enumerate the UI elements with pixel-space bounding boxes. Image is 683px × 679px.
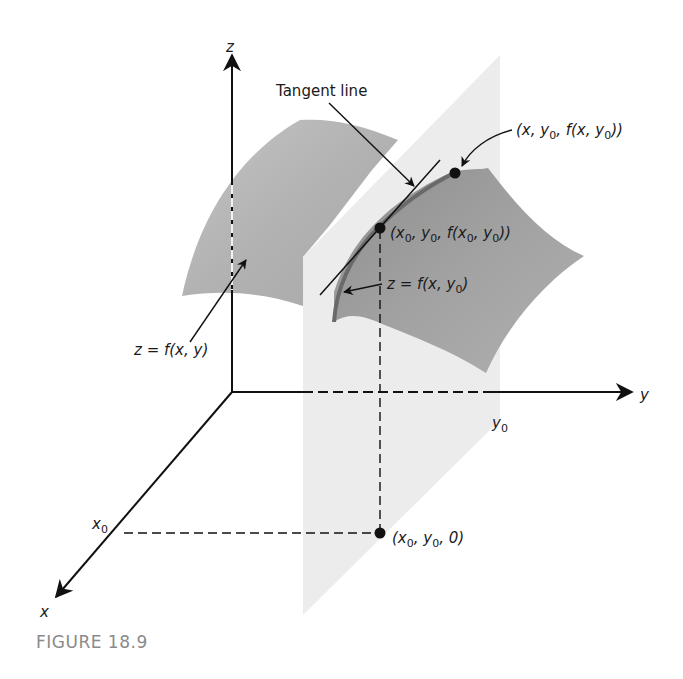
tangent-line-label: Tangent line — [275, 82, 367, 100]
point-moving-label: (x, y0, f(x, y0)) — [516, 121, 623, 142]
y-axis-label: y — [639, 386, 650, 404]
point-tangent — [375, 223, 386, 234]
x-axis — [56, 392, 232, 597]
point-base — [375, 528, 386, 539]
figure-caption: FIGURE 18.9 — [36, 632, 148, 652]
x-axis-label: x — [39, 603, 49, 621]
partial-derivative-diagram: z y x y0 x0 Tangent line (x, y0, f(x, y0… — [0, 0, 683, 679]
surface-main-label: z = f(x, y) — [133, 341, 208, 359]
y0-label: y0 — [491, 414, 508, 435]
x0-label: x0 — [91, 515, 108, 536]
point-base-label: (x0, y0, 0) — [392, 529, 464, 550]
point-moving — [450, 168, 461, 179]
z-axis-label: z — [225, 38, 235, 56]
